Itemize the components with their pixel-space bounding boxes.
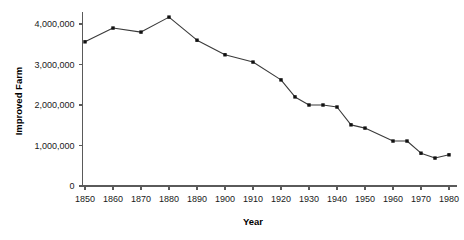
data-point-marker <box>279 78 282 81</box>
data-point-marker <box>447 153 450 156</box>
data-point-marker <box>391 139 394 142</box>
x-tick-label: 1880 <box>159 194 179 204</box>
x-tick-label: 1940 <box>327 194 347 204</box>
y-tick-label: 2,000,000 <box>34 100 74 110</box>
chart-container: 01,000,0002,000,0003,000,0004,000,000 18… <box>0 0 464 240</box>
series-markers <box>83 15 450 159</box>
data-point-marker <box>321 103 324 106</box>
data-point-marker <box>293 95 296 98</box>
y-tick-label: 1,000,000 <box>34 141 74 151</box>
x-tick-label: 1980 <box>439 194 459 204</box>
data-point-marker <box>335 105 338 108</box>
x-tick-label: 1860 <box>103 194 123 204</box>
data-point-marker <box>419 152 422 155</box>
line-chart: 01,000,0002,000,0003,000,0004,000,000 18… <box>0 0 464 240</box>
data-point-marker <box>251 60 254 63</box>
data-point-marker <box>405 139 408 142</box>
x-tick-label: 1970 <box>411 194 431 204</box>
x-tick-label: 1950 <box>355 194 375 204</box>
data-point-marker <box>307 103 310 106</box>
y-axis-ticks: 01,000,0002,000,0003,000,0004,000,000 <box>34 19 82 191</box>
data-point-marker <box>83 40 86 43</box>
x-tick-label: 1960 <box>383 194 403 204</box>
x-tick-label: 1890 <box>187 194 207 204</box>
y-axis-title: Improved Farm <box>13 67 24 136</box>
x-axis-title: Year <box>243 216 263 227</box>
series-line-path <box>85 17 449 158</box>
data-point-marker <box>195 39 198 42</box>
x-tick-label: 1900 <box>215 194 235 204</box>
y-tick-label: 4,000,000 <box>34 19 74 29</box>
y-tick-label: 3,000,000 <box>34 60 74 70</box>
data-point-marker <box>139 30 142 33</box>
y-tick-label: 0 <box>69 181 74 191</box>
data-point-marker <box>111 26 114 29</box>
x-tick-label: 1910 <box>243 194 263 204</box>
data-point-marker <box>223 53 226 56</box>
x-axis-ticks: 1850186018701880189019001910192019301940… <box>75 186 459 204</box>
data-series-improved-farm <box>83 15 450 159</box>
data-point-marker <box>167 15 170 18</box>
data-point-marker <box>363 126 366 129</box>
x-tick-label: 1930 <box>299 194 319 204</box>
data-point-marker <box>433 156 436 159</box>
data-point-marker <box>349 123 352 126</box>
x-tick-label: 1870 <box>131 194 151 204</box>
x-tick-label: 1850 <box>75 194 95 204</box>
x-tick-label: 1920 <box>271 194 291 204</box>
